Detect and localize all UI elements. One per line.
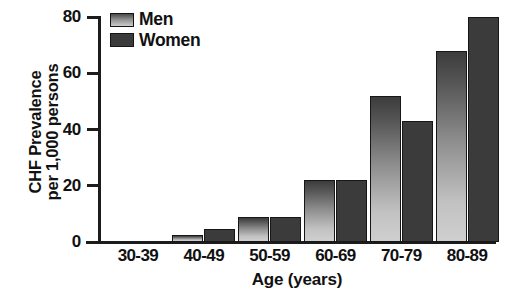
- y-axis-title-line-1: CHF Prevalence: [27, 71, 44, 194]
- bar-women-40-49[interactable]: [204, 229, 235, 242]
- x-axis-tick-label: 40-49: [184, 246, 224, 266]
- legend-item-men: Men: [110, 11, 200, 29]
- x-axis-tick-label: 50-59: [249, 246, 289, 266]
- bar-group: [172, 17, 235, 242]
- x-axis-tick-label: 30-39: [118, 246, 158, 266]
- bars-layer: [101, 17, 496, 242]
- bar-women-80-89[interactable]: [468, 17, 499, 242]
- bar-women-70-79[interactable]: [402, 121, 433, 242]
- y-axis-title-line-2: per 1,000 persons: [44, 64, 61, 201]
- chart-legend: Men Women: [110, 11, 200, 49]
- bar-group: [106, 17, 169, 242]
- legend-label-women: Women: [139, 32, 200, 50]
- chart-figure: CHF Prevalence per 1,000 persons 0204060…: [0, 0, 505, 296]
- bar-men-50-59[interactable]: [238, 217, 269, 242]
- x-axis-tick-labels: 30-3940-4950-5960-6970-7980-89: [98, 246, 496, 270]
- x-axis-tick-label: 80-89: [447, 246, 487, 266]
- y-axis-tick-label: 20: [63, 175, 81, 195]
- bar-men-60-69[interactable]: [304, 180, 335, 242]
- y-axis-tick: 0: [87, 241, 99, 244]
- y-axis-tick: 80: [87, 16, 99, 19]
- legend-swatch-men-icon: [110, 13, 134, 27]
- y-axis-tick-label: 60: [63, 63, 81, 83]
- bar-group: [304, 17, 367, 242]
- bar-women-50-59[interactable]: [270, 217, 301, 242]
- bar-men-40-49[interactable]: [172, 235, 203, 242]
- bar-men-70-79[interactable]: [370, 96, 401, 242]
- y-axis-tick: 60: [87, 72, 99, 75]
- legend-label-men: Men: [139, 11, 173, 29]
- bar-group: [436, 17, 499, 242]
- y-axis-tick: 40: [87, 128, 99, 131]
- legend-swatch-women-icon: [110, 33, 134, 47]
- x-axis-tick-label: 60-69: [315, 246, 355, 266]
- bar-group: [238, 17, 301, 242]
- y-axis-tick-label: 0: [72, 232, 81, 252]
- x-axis-tick-label: 70-79: [381, 246, 421, 266]
- plot-area: 020406080: [98, 17, 496, 242]
- bar-women-60-69[interactable]: [336, 180, 367, 242]
- y-axis-tick-label: 80: [63, 7, 81, 27]
- bar-group: [370, 17, 433, 242]
- y-axis-tick: 20: [87, 184, 99, 187]
- y-axis-title: CHF Prevalence per 1,000 persons: [24, 27, 64, 237]
- legend-item-women: Women: [110, 32, 200, 50]
- bar-men-80-89[interactable]: [436, 51, 467, 242]
- x-axis-title: Age (years): [98, 270, 496, 290]
- y-axis-tick-label: 40: [63, 119, 81, 139]
